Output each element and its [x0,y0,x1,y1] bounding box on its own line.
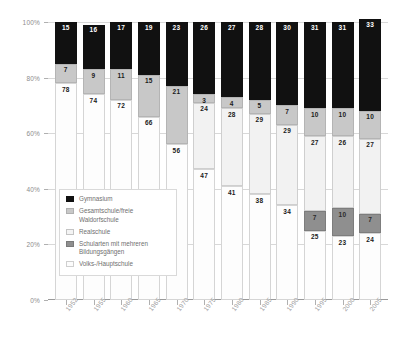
bar-segment-value: 10 [366,112,374,121]
bar-segment: 17 [110,22,132,69]
bar-segment: 5 [249,100,271,114]
bar-segment: 15 [55,22,77,64]
bar-segment-value: 56 [173,145,181,154]
bar-segment: 16 [83,25,105,69]
legend-swatch-gym [66,196,74,202]
y-axis-tick [44,189,48,190]
bar-segment: 27 [359,139,381,214]
bar-segment: 31 [332,22,354,108]
bar-segment-value: 16 [90,25,98,34]
bar-segment-value: 31 [311,22,319,31]
bar-segment: 27 [304,136,326,211]
bar-segment-value: 41 [228,187,236,196]
bar-segment: 7 [304,211,326,230]
bar-1975: 2632447 [193,22,215,300]
bar-1995: 311027725 [304,22,326,300]
bar-segment-value: 5 [258,101,262,110]
bar-segment-value: 10 [339,209,347,218]
bar-segment-value: 34 [283,206,291,215]
y-axis-tick [44,244,48,245]
bar-segment: 10 [359,111,381,139]
bar-segment-value: 27 [228,22,236,31]
bar-segment: 10 [332,108,354,136]
bar-segment: 10 [332,208,354,236]
bar-segment-value: 10 [339,109,347,118]
bar-segment: 26 [193,22,215,94]
legend-item-label: Gesamtschule/freie Waldorfschule [79,207,170,224]
bar-segment: 47 [193,169,215,300]
bar-segment: 41 [221,186,243,300]
bar-segment-value: 23 [173,22,181,31]
legend-item[interactable]: Gesamtschule/freie Waldorfschule [66,207,170,224]
bar-segment-value: 21 [173,87,181,96]
legend-item[interactable]: Schularten mit mehreren Bildungsgängen [66,240,170,257]
bar-segment: 29 [249,114,271,195]
bar-segment: 26 [332,136,354,208]
bar-segment: 24 [193,103,215,170]
bar-segment-value: 15 [62,22,70,31]
bar-segment: 9 [83,69,105,94]
bar-segment-value: 17 [117,22,125,31]
bar-segment: 7 [55,64,77,83]
bar-segment-value: 66 [145,118,153,127]
legend-item[interactable]: Realschule [66,228,170,237]
bar-segment-value: 4 [230,98,234,107]
legend-swatch-mehr [66,241,74,247]
bar-segment: 38 [249,194,271,300]
bar-segment-value: 7 [285,106,289,115]
legend-item[interactable]: Volks-/Hauptschule [66,260,170,269]
bar-segment: 15 [138,75,160,117]
bar-segment: 4 [221,97,243,108]
bar-segment: 34 [276,205,298,300]
bar-segment: 11 [110,69,132,100]
bar-segment-value: 47 [200,170,208,179]
bar-segment: 33 [359,19,381,111]
bar-segment-value: 29 [283,126,291,135]
bar-segment-value: 27 [311,137,319,146]
bar-segment-value: 7 [313,212,317,221]
bar-segment-value: 24 [366,234,374,243]
bar-segment: 23 [166,22,188,86]
bar-segment-value: 29 [256,115,264,124]
bar-segment: 3 [193,94,215,102]
bar-segment-value: 78 [62,84,70,93]
y-axis-label: 20% [0,241,40,248]
bar-segment: 23 [332,236,354,300]
bar-2000: 3110261023 [332,22,354,300]
bar-segment-value: 26 [339,137,347,146]
bar-segment-value: 19 [145,22,153,31]
legend-item-label: Volks-/Hauptschule [79,260,133,269]
y-axis-tick [44,300,48,301]
y-axis-label: 60% [0,130,40,137]
bar-segment-value: 9 [92,70,96,79]
bar-segment-value: 23 [339,237,347,246]
legend-item-label: Schularten mit mehreren Bildungsgängen [79,240,170,257]
bar-segment: 25 [304,231,326,301]
legend-item[interactable]: Gymnasium [66,195,170,204]
bar-segment-value: 11 [117,70,124,79]
bar-segment: 27 [221,22,243,97]
legend-swatch-real [66,229,74,235]
bar-segment-value: 15 [145,76,153,85]
bar-segment: 31 [304,22,326,108]
chart-legend: GymnasiumGesamtschule/freie Waldorfschul… [59,189,177,276]
bar-segment: 30 [276,22,298,105]
y-axis-tick [44,133,48,134]
bar-segment-value: 28 [228,109,236,118]
bar-segment-value: 28 [256,22,264,31]
bar-segment: 24 [359,233,381,300]
y-axis-tick [44,22,48,23]
bar-1990: 3072934 [276,22,298,300]
bar-segment: 28 [249,22,271,100]
y-axis-label: 100% [0,19,40,26]
bar-segment-value: 26 [200,22,208,31]
legend-swatch-ges [66,208,74,214]
bar-segment-value: 7 [368,215,372,224]
legend-item-label: Realschule [79,228,110,237]
bar-2005: 331027724 [359,19,381,300]
bar-segment: 21 [166,86,188,144]
bar-segment-value: 72 [117,101,125,110]
bar-segment: 29 [276,125,298,206]
bar-segment: 28 [221,108,243,186]
bar-segment-value: 31 [339,22,347,31]
